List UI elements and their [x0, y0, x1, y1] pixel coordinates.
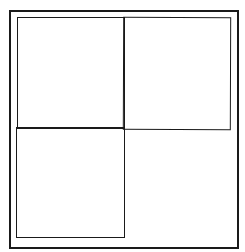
quadrant-top-right — [123, 17, 231, 130]
quadrant-bottom-right — [125, 130, 231, 238]
quadrant-bottom-left — [16, 127, 125, 238]
quadrant-top-left — [17, 17, 125, 129]
